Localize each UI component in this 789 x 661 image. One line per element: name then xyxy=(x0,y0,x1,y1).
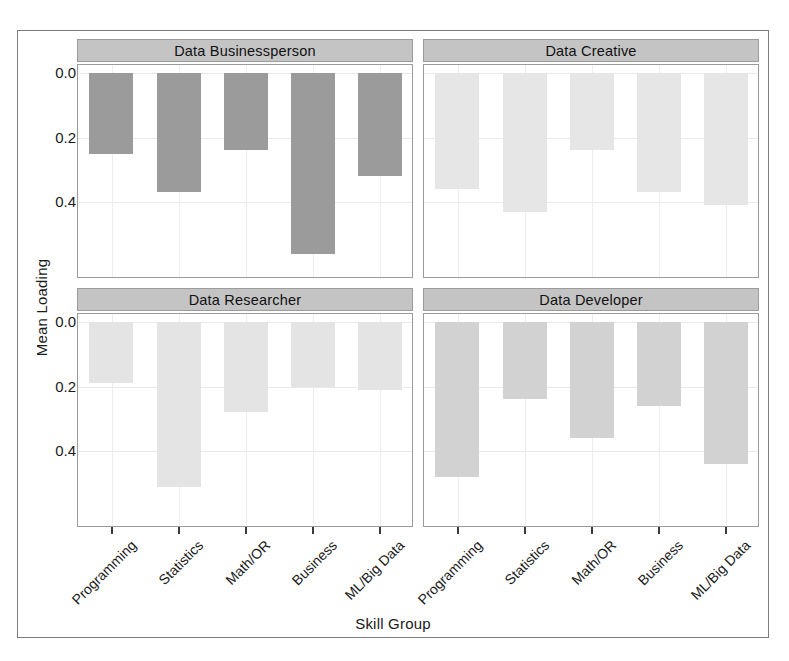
facet-panel-data-developer: Data Developer xyxy=(423,288,759,527)
bar-programming xyxy=(435,73,479,189)
x-tick-mark xyxy=(245,527,247,534)
y-tick-label: 0.4 xyxy=(55,442,76,459)
x-tick-label-math-or: Math/OR xyxy=(222,537,273,588)
x-tick-mark xyxy=(725,527,727,534)
x-tick-label-ml-big-data: ML/Big Data xyxy=(342,537,408,603)
x-tick-label-business: Business xyxy=(289,537,340,588)
horizontal-gridline xyxy=(78,202,412,203)
bar-math-or xyxy=(570,322,614,438)
bar-business xyxy=(291,322,335,387)
bar-math-or xyxy=(224,73,268,150)
y-tick-label: 0.2 xyxy=(55,377,76,394)
bar-business xyxy=(637,322,681,406)
bar-statistics xyxy=(157,73,201,192)
x-tick-mark xyxy=(379,527,381,534)
x-tick-mark xyxy=(312,527,314,534)
x-tick-mark xyxy=(111,527,113,534)
bar-statistics xyxy=(503,73,547,212)
panel-plot-area xyxy=(77,64,413,278)
bar-math-or xyxy=(570,73,614,150)
x-tick-mark xyxy=(658,527,660,534)
facet-panel-data-researcher: Data Researcher xyxy=(77,288,413,527)
x-axis-title: Skill Group xyxy=(18,615,768,632)
x-tick-label-ml-big-data: ML/Big Data xyxy=(688,537,754,603)
bar-math-or xyxy=(224,322,268,412)
figure-frame: Mean Loading 0.00.20.4 0.00.20.4 Data Bu… xyxy=(17,30,769,638)
bar-business xyxy=(291,73,335,254)
bar-programming xyxy=(89,322,133,383)
horizontal-gridline xyxy=(78,451,412,452)
x-tick-label-programming: Programming xyxy=(69,537,140,608)
y-tick-label: 0.2 xyxy=(55,128,76,145)
x-tick-mark xyxy=(457,527,459,534)
x-tick-label-statistics: Statistics xyxy=(155,537,206,588)
facet-panel-data-creative: Data Creative xyxy=(423,39,759,278)
bar-ml-big-data xyxy=(358,73,402,176)
x-tick-label-statistics: Statistics xyxy=(501,537,552,588)
x-tick-mark xyxy=(178,527,180,534)
panel-grid: Data BusinesspersonData CreativeData Res… xyxy=(77,39,759,534)
bar-business xyxy=(637,73,681,192)
x-tick-mark xyxy=(591,527,593,534)
panel-strip-label: Data Businessperson xyxy=(77,39,413,62)
facet-panel-data-businessperson: Data Businessperson xyxy=(77,39,413,278)
y-tick-label: 0.0 xyxy=(55,313,76,330)
panel-plot-area xyxy=(77,313,413,527)
bar-ml-big-data xyxy=(704,322,748,464)
bar-statistics xyxy=(157,322,201,487)
panel-strip-label: Data Researcher xyxy=(77,288,413,311)
panel-strip-label: Data Creative xyxy=(423,39,759,62)
bar-programming xyxy=(89,73,133,154)
panel-strip-label: Data Developer xyxy=(423,288,759,311)
bar-ml-big-data xyxy=(358,322,402,390)
y-tick-label: 0.4 xyxy=(55,193,76,210)
bar-ml-big-data xyxy=(704,73,748,205)
x-tick-label-math-or: Math/OR xyxy=(568,537,619,588)
bar-programming xyxy=(435,322,479,477)
panel-plot-area xyxy=(423,313,759,527)
x-tick-mark xyxy=(524,527,526,534)
x-tick-label-business: Business xyxy=(635,537,686,588)
y-tick-label: 0.0 xyxy=(55,64,76,81)
bar-statistics xyxy=(503,322,547,399)
x-tick-label-programming: Programming xyxy=(415,537,486,608)
panel-plot-area xyxy=(423,64,759,278)
